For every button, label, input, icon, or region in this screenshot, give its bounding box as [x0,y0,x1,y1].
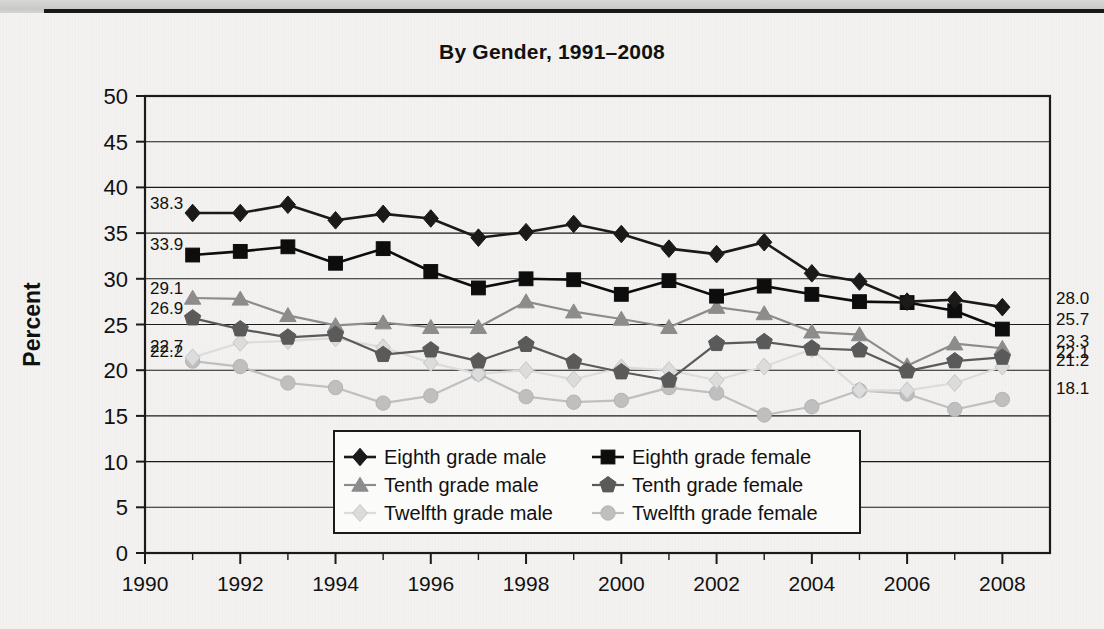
series-twelfth-grade-male [185,330,1010,399]
svg-text:2006: 2006 [884,572,931,595]
series-twelfth-grade-female [185,354,1009,422]
svg-text:2008: 2008 [979,572,1026,595]
x-axis-tick-labels: 1990199219941996199820002002200420062008 [122,572,1026,595]
svg-text:50: 50 [104,84,128,109]
end-value-labels: 28.025.723.322.121.218.1 [1056,289,1089,398]
svg-text:22.2: 22.2 [150,342,183,361]
page-top-band [0,0,1104,13]
svg-text:38.3: 38.3 [150,194,183,213]
svg-text:1994: 1994 [312,572,359,595]
start-value-labels: 38.333.929.126.922.722.2 [150,194,183,360]
svg-text:Tenth grade male: Tenth grade male [384,474,539,496]
line-chart: 05101520253035404550Percent1990199219941… [0,13,1104,629]
svg-text:33.9: 33.9 [150,235,183,254]
svg-text:Tenth grade female: Tenth grade female [632,474,803,496]
svg-text:18.1: 18.1 [1056,379,1089,398]
svg-text:1998: 1998 [503,572,550,595]
svg-text:25.7: 25.7 [1056,310,1089,329]
series-eighth-grade-female [186,240,1010,336]
svg-text:Twelfth grade female: Twelfth grade female [632,502,818,524]
svg-text:26.9: 26.9 [150,299,183,318]
svg-text:15: 15 [104,404,128,429]
series-tenth-grade-female [185,310,1011,388]
x-axis-ticks [145,553,1002,564]
svg-text:5: 5 [116,495,128,520]
chart-legend: Eighth grade maleEighth grade femaleTent… [334,431,860,533]
svg-text:Eighth grade female: Eighth grade female [632,446,811,468]
svg-text:2000: 2000 [598,572,645,595]
svg-text:Eighth grade male: Eighth grade male [384,446,546,468]
svg-text:1992: 1992 [217,572,264,595]
svg-text:Twelfth grade male: Twelfth grade male [384,502,553,524]
svg-text:2002: 2002 [693,572,740,595]
y-axis-title: Percent [19,282,45,367]
svg-text:29.1: 29.1 [150,279,183,298]
svg-text:20: 20 [104,358,128,383]
svg-text:45: 45 [104,130,128,155]
svg-text:10: 10 [104,450,128,475]
svg-text:30: 30 [104,267,128,292]
svg-text:28.0: 28.0 [1056,289,1089,308]
svg-text:40: 40 [104,175,128,200]
svg-text:25: 25 [104,313,128,338]
chart-figure: By Gender, 1991–2008 0510152025303540455… [0,13,1104,629]
svg-text:Percent: Percent [19,282,45,367]
svg-text:0: 0 [116,541,128,566]
svg-text:1990: 1990 [122,572,169,595]
svg-text:1996: 1996 [407,572,454,595]
y-axis-tick-labels: 05101520253035404550 [104,84,128,566]
series-eighth-grade-male [185,196,1010,316]
svg-text:21.2: 21.2 [1056,351,1089,370]
svg-text:35: 35 [104,221,128,246]
svg-text:2004: 2004 [788,572,835,595]
